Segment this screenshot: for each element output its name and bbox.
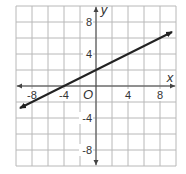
coordinate-plane: -8 -4 4 8 8 4 -4 -8 O x y [0, 0, 186, 174]
y-axis-label: y [100, 2, 109, 17]
y-tick-label: -4 [82, 112, 92, 124]
y-tick-label: -8 [82, 144, 92, 156]
x-tick-label: -4 [59, 89, 69, 101]
origin-label: O [83, 87, 93, 102]
x-tick-label: 4 [125, 89, 131, 101]
y-tick-label: 8 [86, 16, 92, 28]
y-tick-label: 4 [86, 48, 92, 60]
x-axis-label: x [166, 70, 174, 85]
x-tick-label: 8 [157, 89, 163, 101]
